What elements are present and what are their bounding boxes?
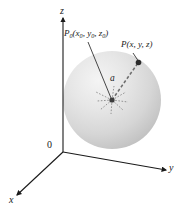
center-point-dot: [109, 97, 114, 102]
p0-y: , y: [83, 28, 92, 38]
x-axis-line: [17, 152, 63, 195]
p0-z: , z: [94, 28, 102, 38]
surface-point-dot: [136, 60, 142, 66]
origin-label: 0: [47, 140, 52, 150]
p0-close: ): [105, 28, 108, 38]
p0-open: (x: [73, 28, 80, 38]
y-axis-label: y: [169, 163, 173, 173]
radius-label: a: [110, 74, 115, 84]
x-axis-label: x: [9, 195, 13, 205]
y-axis-line: [63, 152, 166, 170]
center-point-label: P0(x0, y0, z0): [64, 29, 108, 39]
surface-point-label: P(x, y, z): [121, 40, 153, 49]
z-axis-label: z: [60, 6, 64, 16]
